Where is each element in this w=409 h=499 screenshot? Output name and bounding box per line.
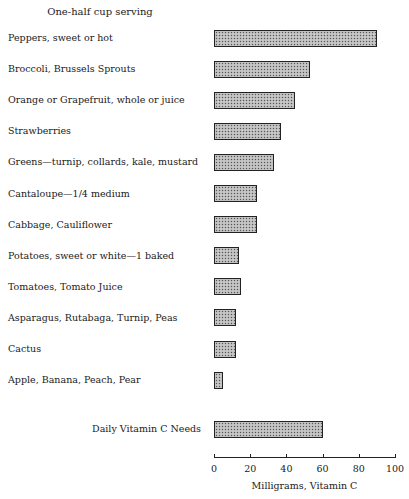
chart-subtitle: One-half cup serving [0, 6, 200, 17]
bar-11 [214, 372, 223, 389]
bar-4-label: Greens—turnip, collards, kale, mustard [8, 156, 198, 168]
x-axis-label: Milligrams, Vitamin C [214, 480, 395, 491]
x-tick [323, 454, 324, 458]
bar-7-label: Potatoes, sweet or white—1 baked [8, 250, 174, 262]
bar-11-label: Apple, Banana, Peach, Pear [8, 374, 141, 386]
bar-6 [214, 216, 257, 233]
bar-5-label: Cantaloupe—1/4 medium [8, 188, 130, 200]
x-tick-label: 80 [344, 463, 374, 474]
bar-7 [214, 247, 239, 264]
bar-8 [214, 278, 241, 295]
x-tick [250, 454, 251, 458]
bar-10-label: Cactus [8, 343, 41, 355]
x-tick-label: 100 [380, 463, 409, 474]
x-tick [214, 454, 215, 458]
x-tick-label: 40 [271, 463, 301, 474]
bar-0 [214, 30, 377, 47]
bar-1 [214, 61, 310, 78]
bar-10 [214, 341, 236, 358]
x-tick [395, 454, 396, 458]
x-axis-line [214, 457, 395, 458]
bar-3-label: Strawberries [8, 125, 71, 137]
bar-6-label: Cabbage, Cauliflower [8, 219, 112, 231]
x-tick [286, 454, 287, 458]
x-tick-label: 20 [235, 463, 265, 474]
bar-2-label: Orange or Grapefruit, whole or juice [8, 94, 185, 106]
bar-1-label: Broccoli, Brussels Sprouts [8, 63, 135, 75]
x-tick-label: 0 [199, 463, 229, 474]
bar-9 [214, 309, 236, 326]
bar-daily-needs [214, 421, 323, 438]
bar-3 [214, 123, 281, 140]
bar-5 [214, 185, 257, 202]
x-tick [359, 454, 360, 458]
bar-4 [214, 154, 274, 171]
x-tick-label: 60 [308, 463, 338, 474]
bar-9-label: Asparagus, Rutabaga, Turnip, Peas [8, 312, 177, 324]
bar-daily-needs-label: Daily Vitamin C Needs [92, 423, 201, 435]
bar-2 [214, 92, 295, 109]
bar-0-label: Peppers, sweet or hot [8, 32, 113, 44]
bar-8-label: Tomatoes, Tomato Juice [8, 281, 123, 293]
